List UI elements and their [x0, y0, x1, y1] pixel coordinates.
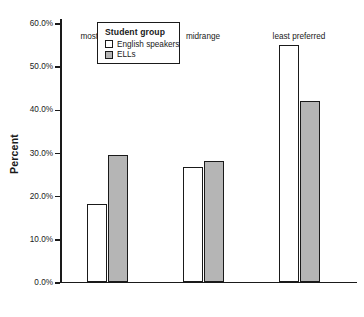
bar-english-speakers: [87, 204, 107, 281]
y-axis-tick: [55, 282, 60, 284]
y-axis-tick-label: 20.0%: [0, 191, 53, 200]
y-axis-tick: [55, 110, 60, 112]
y-axis-tick: [55, 23, 60, 25]
y-axis-tick: [55, 239, 60, 241]
y-axis-tick-label: 0.0%: [0, 278, 53, 287]
bar-group: least preferred: [268, 23, 330, 282]
y-axis-tick-label: 40.0%: [0, 105, 53, 114]
legend-entry-label: ELLs: [117, 50, 136, 59]
bar-chart: Percent 0.0%10.0%20.0%30.0%40.0%50.0%60.…: [0, 0, 364, 317]
legend-entry-label: English speakers: [117, 40, 179, 49]
legend-entry: ELLs: [105, 50, 173, 59]
legend-swatch-icon: [105, 51, 113, 59]
bar-ells: [204, 161, 224, 282]
bar-ells: [108, 155, 128, 281]
legend-title: Student group: [105, 27, 173, 37]
y-axis-tick-label: 60.0%: [0, 19, 53, 28]
legend-entry: English speakers: [105, 40, 173, 49]
legend: Student group English speakersELLs: [97, 22, 180, 64]
y-axis-line: [60, 19, 62, 283]
legend-swatch-icon: [105, 40, 113, 48]
y-axis-tick: [55, 153, 60, 155]
bar-ells: [300, 101, 320, 282]
y-axis-tick-label: 30.0%: [0, 148, 53, 157]
y-axis-tick-label: 10.0%: [0, 234, 53, 243]
y-axis-tick: [55, 66, 60, 68]
bar-english-speakers: [279, 45, 299, 282]
bar-english-speakers: [183, 167, 203, 281]
y-axis-tick: [55, 196, 60, 198]
x-axis-line: [60, 282, 357, 284]
y-axis-tick-label: 50.0%: [0, 62, 53, 71]
x-axis-label: least preferred: [256, 32, 342, 41]
legend-entries: English speakersELLs: [105, 40, 173, 60]
bar-group: midrange: [172, 23, 234, 282]
